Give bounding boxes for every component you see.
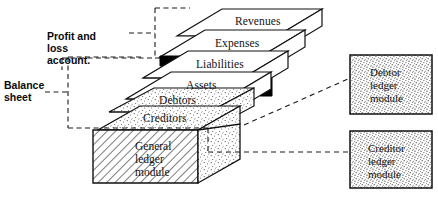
diagram-canvas: Profit and loss account. Balance sheet R… <box>0 0 438 197</box>
slab-label-assets: Assets <box>186 79 217 91</box>
module-label-creditor-ledger: Creditor ledger module <box>368 142 405 180</box>
bracket-label-balance-sheet: Balance sheet <box>4 79 44 103</box>
block-label-general-ledger: General ledger module <box>135 140 171 180</box>
slab-label-expenses: Expenses <box>215 37 259 49</box>
slab-label-creditors: Creditors <box>143 112 187 124</box>
slab-label-revenues: Revenues <box>235 15 281 27</box>
slab-label-liabilities: Liabilities <box>196 58 244 70</box>
module-label-debtor-ledger: Debtor ledger module <box>370 66 403 104</box>
slab-label-debtors: Debtors <box>159 94 196 106</box>
bracket-label-profit-loss: Profit and loss account. <box>47 30 96 67</box>
